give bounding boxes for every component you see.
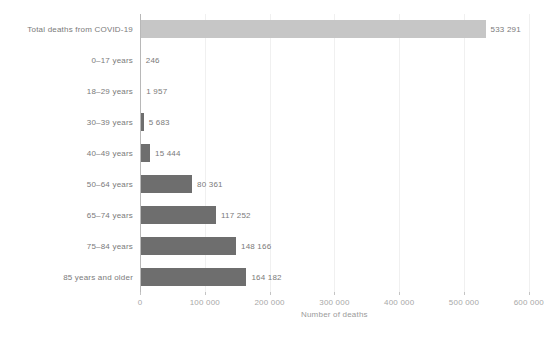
bar-row: 1 957 [140, 82, 522, 100]
x-tick-label: 0 [138, 298, 143, 307]
x-tick-mark [270, 292, 271, 295]
bar-row: 117 252 [140, 206, 522, 224]
bar-value-label: 148 166 [241, 241, 271, 250]
category-label: 65–74 years [87, 210, 133, 219]
bar-row: 5 683 [140, 113, 522, 131]
x-tick-label: 400 000 [384, 298, 414, 307]
x-tick-label: 300 000 [319, 298, 349, 307]
x-tick-label: 100 000 [190, 298, 220, 307]
bar-value-label: 80 361 [197, 179, 223, 188]
bar [140, 268, 246, 286]
bar-row: 533 291 [140, 20, 522, 38]
bar-row: 15 444 [140, 144, 522, 162]
x-tick-mark [140, 292, 141, 295]
category-label: 0–17 years [91, 56, 133, 65]
bar-row: 80 361 [140, 175, 522, 193]
gridline [529, 14, 530, 292]
bar [140, 237, 236, 255]
category-label: 18–29 years [87, 87, 133, 96]
bar-value-label: 117 252 [221, 210, 251, 219]
category-label: 85 years and older [63, 272, 133, 281]
bar [140, 20, 486, 38]
bar-value-label: 533 291 [491, 25, 521, 34]
x-tick-label: 500 000 [449, 298, 479, 307]
category-label: 75–84 years [87, 241, 133, 250]
bar [140, 175, 192, 193]
x-tick-label: 200 000 [254, 298, 284, 307]
bar-value-label: 15 444 [155, 149, 181, 158]
bar-row: 246 [140, 51, 522, 69]
x-axis-title: Number of deaths [301, 310, 368, 319]
x-tick-mark [529, 292, 530, 295]
bar-value-label: 164 182 [251, 272, 281, 281]
bar-row: 164 182 [140, 268, 522, 286]
bar-value-label: 246 [146, 56, 160, 65]
x-tick-label: 600 000 [514, 298, 544, 307]
x-tick-mark [205, 292, 206, 295]
x-tick-mark [399, 292, 400, 295]
category-axis-labels: Total deaths from COVID-190–17 years18–2… [0, 14, 133, 292]
plot-area: 533 2912461 9575 68315 44480 361117 2521… [140, 14, 522, 292]
y-axis-line [140, 14, 141, 293]
bar-row: 148 166 [140, 237, 522, 255]
bar-value-label: 5 683 [149, 118, 170, 127]
bar-value-label: 1 957 [146, 87, 167, 96]
bar [140, 144, 150, 162]
category-label: Total deaths from COVID-19 [27, 25, 133, 34]
category-label: 50–64 years [87, 179, 133, 188]
category-label: 40–49 years [87, 149, 133, 158]
x-tick-mark [464, 292, 465, 295]
x-tick-mark [334, 292, 335, 295]
category-label: 30–39 years [87, 118, 133, 127]
bar [140, 206, 216, 224]
